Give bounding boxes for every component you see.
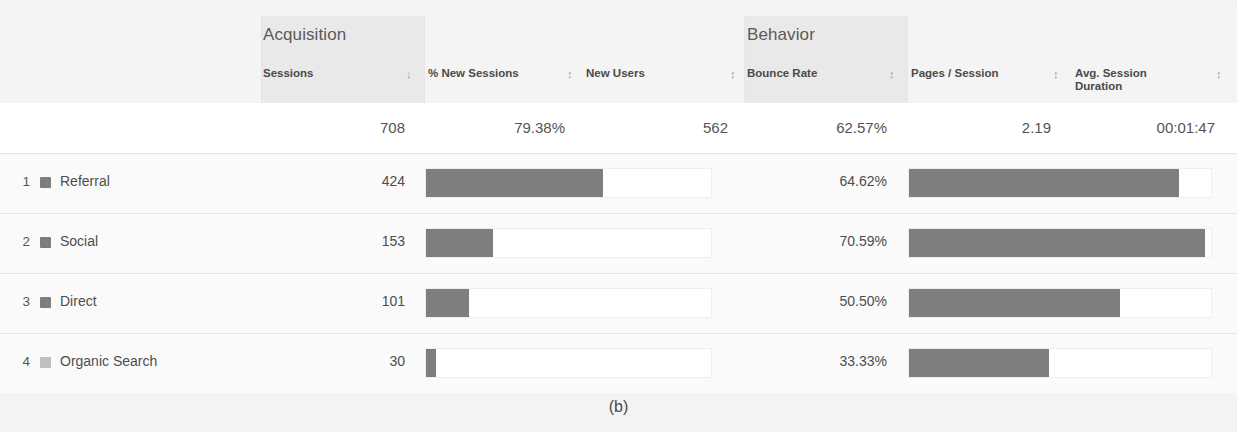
row-divider bbox=[0, 213, 1237, 214]
channel-color-swatch bbox=[40, 237, 51, 248]
bounce-rate-bar-fill bbox=[909, 289, 1120, 317]
cell-sessions: 424 bbox=[280, 173, 405, 189]
row-rank: 2 bbox=[16, 234, 30, 249]
analytics-channels-figure: Acquisition Behavior Sessions ↓ % New Se… bbox=[0, 0, 1237, 432]
sessions-bar-track bbox=[425, 288, 712, 318]
sort-icon[interactable]: ↕ bbox=[1216, 68, 1222, 80]
channel-color-swatch bbox=[40, 297, 51, 308]
totals-row: 708 79.38% 562 62.57% 2.19 00:01:47 bbox=[0, 103, 1237, 153]
cell-bounce-rate: 64.62% bbox=[762, 173, 887, 189]
group-title-behavior: Behavior bbox=[747, 25, 815, 45]
channel-label[interactable]: Direct bbox=[60, 293, 97, 309]
acquisition-channels-table: Acquisition Behavior Sessions ↓ % New Se… bbox=[0, 8, 1237, 393]
cell-sessions: 101 bbox=[280, 293, 405, 309]
channel-color-swatch bbox=[40, 357, 51, 368]
total-sessions: 708 bbox=[280, 119, 405, 136]
cell-bounce-rate: 70.59% bbox=[762, 233, 887, 249]
total-avg-session-duration: 00:01:47 bbox=[1085, 119, 1215, 136]
cell-bounce-rate: 50.50% bbox=[762, 293, 887, 309]
row-rank: 4 bbox=[16, 354, 30, 369]
total-bounce-rate: 62.57% bbox=[762, 119, 887, 136]
table-row[interactable]: 2Social15370.59% bbox=[0, 213, 1237, 273]
sort-icon[interactable]: ↕ bbox=[730, 68, 736, 80]
column-header-line2: Duration bbox=[1075, 80, 1122, 92]
bounce-rate-bar-track bbox=[908, 348, 1212, 378]
column-header-avg-session-duration[interactable]: Avg. Session Duration bbox=[1075, 67, 1147, 93]
column-header-new-users[interactable]: New Users bbox=[586, 67, 645, 80]
column-header-pct-new-sessions[interactable]: % New Sessions bbox=[428, 67, 519, 80]
group-header-row: Acquisition Behavior bbox=[0, 8, 1237, 55]
column-header-bounce-rate[interactable]: Bounce Rate bbox=[747, 67, 817, 80]
bounce-rate-bar-fill bbox=[909, 169, 1179, 197]
sessions-bar-track bbox=[425, 348, 712, 378]
column-header-sessions[interactable]: Sessions bbox=[263, 67, 314, 80]
total-pct-new-sessions: 79.38% bbox=[440, 119, 565, 136]
figure-caption: (b) bbox=[0, 398, 1237, 416]
sessions-bar-track bbox=[425, 228, 712, 258]
row-divider bbox=[0, 153, 1237, 154]
row-rank: 3 bbox=[16, 294, 30, 309]
bounce-rate-bar-fill bbox=[909, 229, 1205, 257]
row-divider bbox=[0, 333, 1237, 334]
sessions-bar-fill bbox=[426, 229, 493, 257]
group-title-acquisition: Acquisition bbox=[263, 25, 346, 45]
total-new-users: 562 bbox=[600, 119, 728, 136]
bounce-rate-bar-track bbox=[908, 228, 1212, 258]
column-header-pages-session[interactable]: Pages / Session bbox=[911, 67, 999, 80]
channel-color-swatch bbox=[40, 177, 51, 188]
bounce-rate-bar-track bbox=[908, 288, 1212, 318]
channel-label[interactable]: Referral bbox=[60, 173, 110, 189]
sort-descending-icon[interactable]: ↓ bbox=[406, 68, 412, 80]
table-row[interactable]: 3Direct10150.50% bbox=[0, 273, 1237, 333]
sessions-bar-fill bbox=[426, 349, 436, 377]
row-rank: 1 bbox=[16, 174, 30, 189]
channel-label[interactable]: Organic Search bbox=[60, 353, 157, 369]
cell-sessions: 153 bbox=[280, 233, 405, 249]
sessions-bar-track bbox=[425, 168, 712, 198]
bounce-rate-bar-track bbox=[908, 168, 1212, 198]
table-row[interactable]: 4Organic Search3033.33% bbox=[0, 333, 1237, 393]
sessions-bar-fill bbox=[426, 289, 469, 317]
sessions-bar-fill bbox=[426, 169, 603, 197]
column-header-line1: Avg. Session bbox=[1075, 67, 1147, 79]
row-divider bbox=[0, 273, 1237, 274]
table-row[interactable]: 1Referral42464.62% bbox=[0, 153, 1237, 213]
cell-bounce-rate: 33.33% bbox=[762, 353, 887, 369]
sort-icon[interactable]: ↕ bbox=[567, 68, 573, 80]
bounce-rate-bar-fill bbox=[909, 349, 1049, 377]
column-header-row: Sessions ↓ % New Sessions ↕ New Users ↕ … bbox=[0, 55, 1237, 103]
sort-icon[interactable]: ↕ bbox=[889, 68, 895, 80]
total-pages-session: 2.19 bbox=[925, 119, 1051, 136]
sort-icon[interactable]: ↕ bbox=[1053, 68, 1059, 80]
cell-sessions: 30 bbox=[280, 353, 405, 369]
channel-label[interactable]: Social bbox=[60, 233, 98, 249]
